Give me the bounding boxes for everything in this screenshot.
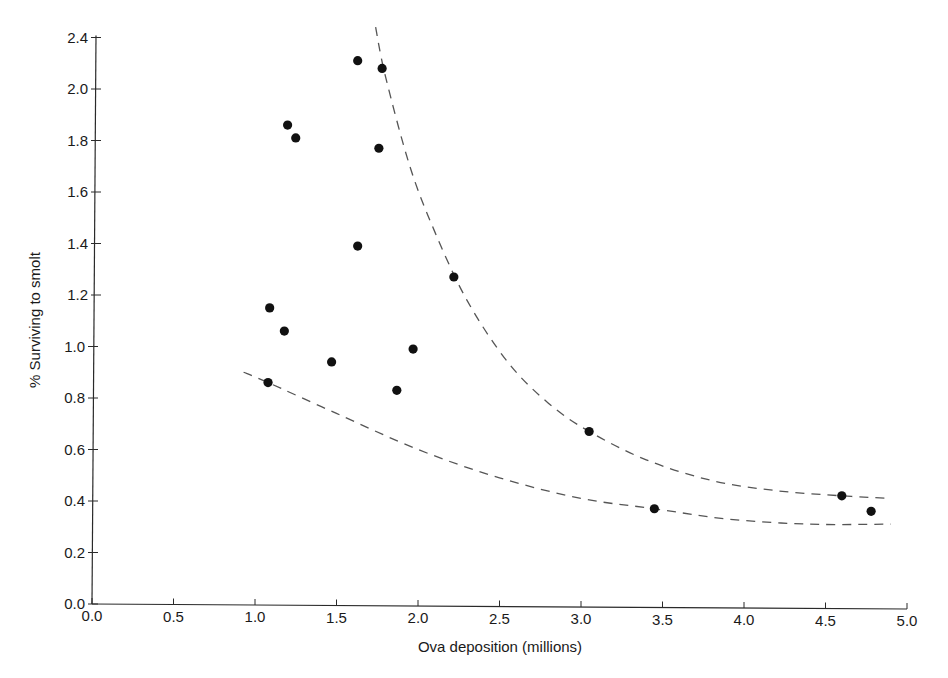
data-point [650, 504, 659, 513]
x-tick-label: 5.0 [897, 612, 918, 629]
y-tick-label: 0.6 [64, 441, 85, 458]
x-tick-label: 3.5 [652, 611, 673, 628]
x-tick-label: 2.0 [408, 609, 429, 626]
scatter-chart: 0.00.20.40.60.81.01.21.41.61.82.02.4 0.0… [0, 0, 948, 678]
y-tick-label: 0.2 [64, 544, 85, 561]
x-axis-title: Ova deposition (millions) [418, 638, 582, 655]
x-axis: 0.00.51.01.52.02.53.03.54.04.55.0 [82, 598, 918, 629]
x-tick-label: 4.5 [815, 612, 836, 629]
y-axis-line [92, 36, 96, 605]
data-point [867, 507, 876, 516]
data-point [392, 386, 401, 395]
data-point [353, 56, 362, 65]
y-tick-label: 1.0 [64, 338, 85, 355]
x-tick-label: 2.5 [489, 610, 510, 627]
y-tick-label: 1.2 [67, 286, 88, 303]
y-tick-label: 1.6 [67, 183, 88, 200]
data-point [585, 427, 594, 436]
data-point [263, 378, 272, 387]
x-tick-label: 0.5 [163, 608, 184, 625]
data-point [283, 120, 292, 129]
y-tick-label: 0.8 [64, 389, 85, 406]
data-point [374, 144, 383, 153]
data-point [378, 64, 387, 73]
upper-bound-curve [376, 27, 891, 498]
y-axis-title: % Surviving to smolt [26, 251, 43, 388]
y-tick-label: 1.8 [67, 132, 88, 149]
data-point [291, 133, 300, 142]
data-point [265, 303, 274, 312]
x-tick-label: 0.0 [82, 607, 103, 624]
data-point [327, 357, 336, 366]
lower-bound-curve [244, 372, 891, 524]
x-tick-label: 1.5 [326, 609, 347, 626]
x-tick-label: 1.0 [245, 608, 266, 625]
y-tick-label: 0.4 [64, 492, 85, 509]
y-axis: 0.00.20.40.60.81.01.21.41.61.82.02.4 [64, 29, 101, 613]
data-point [837, 491, 846, 500]
x-tick-label: 4.0 [734, 611, 755, 628]
data-point [280, 326, 289, 335]
fit-curves [244, 27, 891, 524]
data-point [353, 241, 362, 250]
data-points [263, 56, 875, 516]
data-point [409, 344, 418, 353]
y-tick-label: 2.4 [67, 29, 88, 46]
x-tick-label: 3.0 [571, 610, 592, 627]
y-tick-label: 1.4 [67, 235, 88, 252]
data-point [449, 272, 458, 281]
y-tick-label: 2.0 [67, 80, 88, 97]
